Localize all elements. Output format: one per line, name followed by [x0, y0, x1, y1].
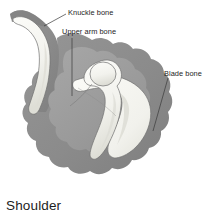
label-knuckle-bone: Knuckle bone: [68, 8, 113, 17]
figure-caption: Shoulder: [6, 197, 61, 214]
leader-line-knuckle-bone: [44, 14, 66, 26]
label-blade-bone: Blade bone: [164, 69, 202, 78]
humeral-head: [90, 62, 116, 86]
shoulder-anatomy-figure: Knuckle bone Upper arm bone Blade bone S…: [0, 0, 210, 220]
label-upper-arm-bone: Upper arm bone: [62, 27, 116, 36]
